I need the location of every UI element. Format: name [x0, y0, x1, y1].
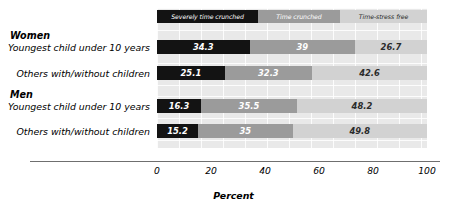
legend-label: Severely time crunched	[171, 13, 244, 20]
bar-segment-time-crunched[interactable]: 35	[198, 124, 293, 138]
bar-value-label: 48.2	[352, 101, 373, 111]
x-axis-tick-40: 40	[245, 165, 285, 176]
x-axis-tick-100: 100	[407, 165, 447, 176]
category-label-men-others: Others with/without children	[0, 126, 150, 137]
bar-value-label: 25.1	[181, 68, 202, 78]
bar-segment-time-stress-free[interactable]: 42.6	[312, 66, 427, 80]
legend-label: Time-stress free	[359, 13, 409, 20]
legend-item-time-stress-free[interactable]: Time-stress free	[340, 10, 427, 23]
legend-item-severely-time-crunched[interactable]: Severely time crunched	[157, 10, 258, 23]
bar-segment-time-stress-free[interactable]: 26.7	[355, 40, 427, 54]
bar-value-label: 49.8	[349, 126, 370, 136]
bar-row: 15.2 35 49.8	[157, 124, 427, 138]
bar-segment-severely-time-crunched[interactable]: 16.3	[157, 99, 201, 113]
category-label-women-youngest-child: Youngest child under 10 years	[0, 42, 150, 53]
bar-segment-time-stress-free[interactable]: 49.8	[293, 124, 427, 138]
bar-segment-time-crunched[interactable]: 32.3	[225, 66, 312, 80]
category-label-women-others: Others with/without children	[0, 68, 150, 79]
x-axis-tick-60: 60	[299, 165, 339, 176]
legend-item-time-crunched[interactable]: Time crunched	[258, 10, 340, 23]
bar-value-label: 42.6	[359, 68, 380, 78]
x-axis-tick-0: 0	[137, 165, 177, 176]
bar-value-label: 32.3	[258, 68, 279, 78]
category-label-men-youngest-child: Youngest child under 10 years	[0, 101, 150, 112]
bar-value-label: 26.7	[381, 42, 402, 52]
chart-legend: Severely time crunched Time crunched Tim…	[157, 10, 427, 23]
bar-segment-time-stress-free[interactable]: 48.2	[297, 99, 427, 113]
bar-value-label: 34.3	[193, 42, 214, 52]
group-heading-men: Men	[10, 89, 33, 100]
bar-value-label: 16.3	[169, 101, 190, 111]
stacked-bar-chart: Severely time crunched Time crunched Tim…	[0, 0, 467, 212]
bar-value-label: 35.5	[239, 101, 260, 111]
bar-value-label: 39	[296, 42, 308, 52]
x-axis-title: Percent	[0, 190, 467, 201]
bar-segment-severely-time-crunched[interactable]: 15.2	[157, 124, 198, 138]
bar-row: 16.3 35.5 48.2	[157, 99, 427, 113]
bar-segment-time-crunched[interactable]: 35.5	[201, 99, 297, 113]
x-axis-line	[30, 161, 440, 162]
bar-value-label: 35	[239, 126, 251, 136]
bar-segment-time-crunched[interactable]: 39	[250, 40, 355, 54]
group-heading-women: Women	[10, 30, 50, 41]
bar-row: 34.3 39 26.7	[157, 40, 427, 54]
legend-label: Time crunched	[276, 13, 322, 20]
x-axis-tick-80: 80	[353, 165, 393, 176]
x-axis-tick-20: 20	[191, 165, 231, 176]
bar-value-label: 15.2	[167, 126, 188, 136]
bar-segment-severely-time-crunched[interactable]: 25.1	[157, 66, 225, 80]
bar-segment-severely-time-crunched[interactable]: 34.3	[157, 40, 250, 54]
bar-row: 25.1 32.3 42.6	[157, 66, 427, 80]
